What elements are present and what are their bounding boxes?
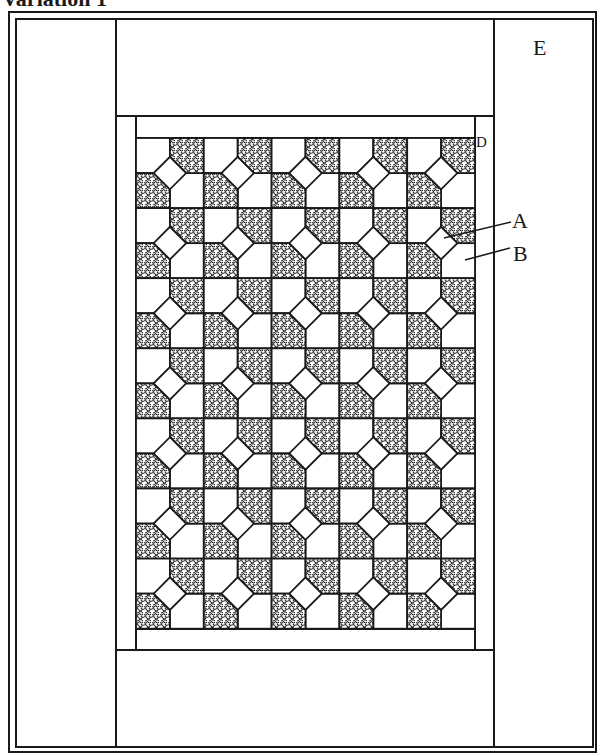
quilt-block [272, 418, 340, 488]
quilt-block [136, 559, 204, 629]
quilt-block [204, 138, 272, 208]
label-E-outer-border: E [533, 37, 546, 59]
quilt-block [136, 489, 204, 559]
quilt-block [407, 208, 475, 278]
quilt-block [339, 418, 407, 488]
quilt-block [204, 348, 272, 418]
quilt-block [339, 138, 407, 208]
quilt-block [204, 489, 272, 559]
quilt-block [136, 418, 204, 488]
quilt-block [204, 418, 272, 488]
quilt-block [204, 208, 272, 278]
quilt-block [339, 278, 407, 348]
quilt-block [272, 348, 340, 418]
quilt-block [136, 138, 204, 208]
quilt-block [339, 489, 407, 559]
label-D-inner-border: D [476, 135, 487, 150]
quilt-block [136, 278, 204, 348]
quilt-block [407, 489, 475, 559]
quilt-block [407, 138, 475, 208]
quilt-block [272, 138, 340, 208]
quilt-block [339, 208, 407, 278]
quilt-block [339, 559, 407, 629]
quilt-block [407, 278, 475, 348]
quilt-block [272, 278, 340, 348]
quilt-diagram [0, 0, 600, 756]
quilt-block [272, 559, 340, 629]
quilt-block [204, 559, 272, 629]
quilt-block [136, 348, 204, 418]
quilt-block [272, 208, 340, 278]
quilt-block [339, 348, 407, 418]
quilt-block [407, 559, 475, 629]
quilt-block [136, 208, 204, 278]
quilt-block [272, 489, 340, 559]
block-grid [136, 138, 475, 629]
label-A-center-diamond: A [512, 210, 528, 232]
label-B-light-square: B [513, 243, 528, 265]
quilt-block [407, 418, 475, 488]
quilt-block [204, 278, 272, 348]
quilt-block [407, 348, 475, 418]
